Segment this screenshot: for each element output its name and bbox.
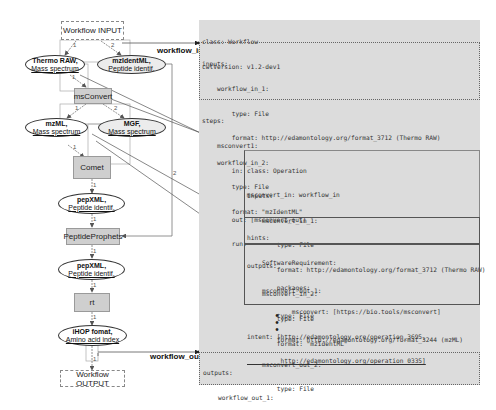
node-pepxml-1: pepXML, Peptide identif. <box>58 193 125 214</box>
tool-msconvert-label: msConvert <box>74 92 113 101</box>
node-mzidentml: mzIdentML, Peptide identif. <box>97 55 166 74</box>
code-line: outputs: <box>203 369 419 377</box>
code-line: format: http://edamontology.org/format_3… <box>247 336 463 344</box>
edge-label: 2 <box>114 105 117 111</box>
code-line: msconvert_out_1: <box>247 287 463 295</box>
tool-comet-label: Comet <box>80 163 104 172</box>
workflow-output-box: Workflow OUTPUT <box>60 370 125 387</box>
node-pepxml-1-type: pepXML, <box>77 196 106 204</box>
edge-label: 1 <box>93 216 96 222</box>
tool-peptideprophets: PeptideProphets <box>66 228 120 245</box>
workflow-output-label: Workflow OUTPUT <box>61 370 124 388</box>
code-line: inputs: <box>202 60 440 68</box>
code-line: hints: <box>247 234 441 242</box>
connector-workflow-out: workflow_out <box>150 352 202 361</box>
node-mzidentml-type: mzIdentML, <box>112 57 151 65</box>
tool-comet: Comet <box>73 156 111 179</box>
edge-label: 1 <box>73 42 76 48</box>
edge-label: 1 <box>93 314 96 320</box>
node-mzml: mzML, Mass spectrum <box>25 118 88 137</box>
edge-label: 1 <box>93 248 96 254</box>
edge-label: 1 <box>93 356 96 362</box>
node-ihop-desc: Amino acid index <box>66 336 119 344</box>
tool-peptideprophets-label: PeptideProphets <box>63 232 122 241</box>
connector-workflow-in: workflow_in <box>157 46 203 55</box>
edge-label: 2 <box>111 42 114 48</box>
node-mgf-desc: Mass spectrum <box>108 128 155 136</box>
tool-rt-label: rt <box>90 298 95 307</box>
node-thermo-raw-desc: Mass spectrum <box>31 65 78 73</box>
node-mzidentml-desc: Peptide identif. <box>108 65 154 73</box>
edge-label: 1 <box>72 74 75 80</box>
edge-label: 2 <box>173 170 176 176</box>
ellipsis-dots: • • • <box>272 312 282 333</box>
code-line: class: Operation <box>247 167 485 175</box>
code-line: outputs: <box>247 262 463 270</box>
node-thermo-raw: Thermo RAW, Mass spectrum <box>25 55 85 74</box>
tool-rt: rt <box>74 293 110 312</box>
code-line: inputs: <box>247 192 485 200</box>
edge-label: 1 <box>93 182 96 188</box>
node-thermo-raw-type: Thermo RAW, <box>32 57 78 65</box>
code-line: msconvert1: <box>202 142 340 150</box>
edge-label: 1 <box>75 105 78 111</box>
edge-label: 1 <box>73 144 76 150</box>
code-line: steps: <box>202 117 340 125</box>
node-ihop-type: iHOP fomat, <box>73 328 113 336</box>
node-pepxml-2-desc: Peptide identif. <box>68 270 114 278</box>
workflow-input-label: Workflow INPUT <box>63 26 122 35</box>
tool-msconvert: msConvert <box>74 88 112 104</box>
edge-label: 1 <box>93 282 96 288</box>
code-line: workflow_in_1: <box>202 85 440 93</box>
node-ihop: iHOP fomat, Amino acid index <box>58 325 127 346</box>
node-mzml-type: mzML, <box>46 120 68 128</box>
code-line: workflow_out_1: <box>203 394 419 402</box>
workflow-input-box: Workflow INPUT <box>61 21 124 40</box>
node-mgf-type: MGF, <box>124 120 141 128</box>
node-pepxml-2: pepXML, Peptide identif. <box>58 259 125 280</box>
node-pepxml-1-desc: Peptide identif. <box>68 204 114 212</box>
node-pepxml-2-type: pepXML, <box>77 262 106 270</box>
code-outputs: outputs: workflow_out_1: type: File form… <box>203 353 419 410</box>
node-mgf: MGF, Mass spectrum <box>98 118 166 137</box>
node-mzml-desc: Mass spectrum <box>33 128 80 136</box>
